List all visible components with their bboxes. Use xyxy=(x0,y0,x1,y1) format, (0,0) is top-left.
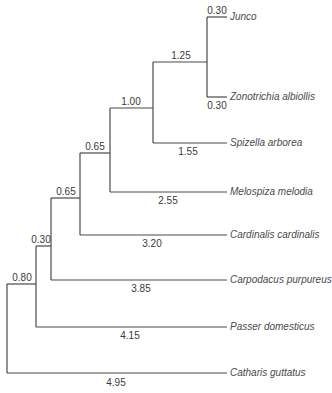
leaf-label-catharis: Catharis guttatus xyxy=(230,367,306,379)
leaf-label-zonotrichia: Zonotrichia albiollis xyxy=(230,91,315,103)
leaf-label-spizella: Spizella arborea xyxy=(230,137,302,149)
length-internal-1.00: 1.00 xyxy=(121,96,140,107)
length-cardinalis: 3.20 xyxy=(142,238,161,249)
length-internal-0.30: 0.30 xyxy=(31,234,50,245)
length-melospiza: 2.55 xyxy=(158,195,177,206)
length-spizella: 1.55 xyxy=(178,146,197,157)
length-zonotrichia: 0.30 xyxy=(207,100,226,111)
leaf-label-passer: Passer domesticus xyxy=(230,321,314,333)
length-internal-0.65-upper: 0.65 xyxy=(85,141,104,152)
leaf-label-junco: Junco xyxy=(230,11,257,23)
length-internal-0.65-lower: 0.65 xyxy=(56,186,75,197)
length-junco: 0.30 xyxy=(207,5,226,16)
length-catharis: 4.95 xyxy=(106,377,125,388)
leaf-label-melospiza: Melospiza melodia xyxy=(230,186,313,198)
length-carpodacus: 3.85 xyxy=(131,283,150,294)
leaf-label-carpodacus: Carpodacus purpureus xyxy=(230,274,332,286)
leaf-label-cardinalis: Cardinalis cardinalis xyxy=(230,229,319,241)
length-internal-0.80: 0.80 xyxy=(12,272,31,283)
length-internal-1.25: 1.25 xyxy=(171,50,190,61)
length-passer: 4.15 xyxy=(120,330,139,341)
